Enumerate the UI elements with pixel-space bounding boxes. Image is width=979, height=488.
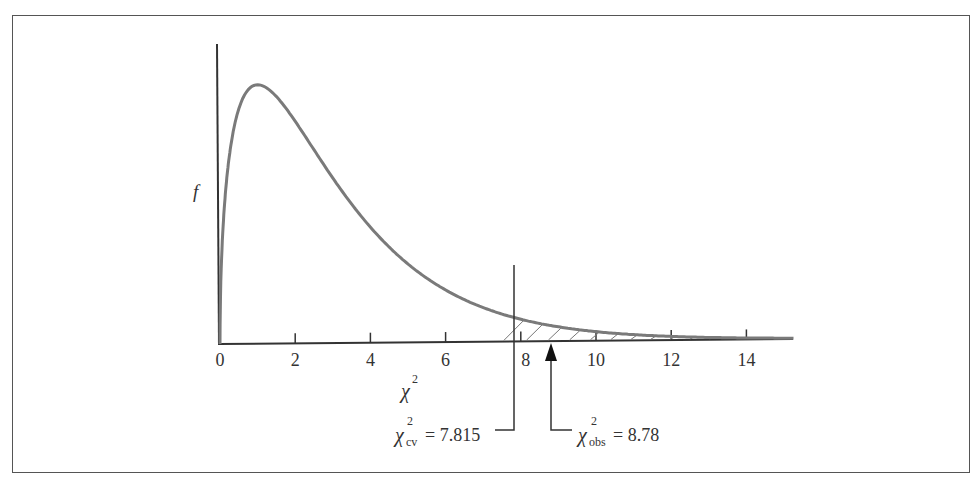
cv-sup: 2 (407, 414, 413, 428)
cv-value: = 7.815 (425, 425, 480, 445)
observed-value-leader (551, 360, 572, 430)
hatch-line (548, 328, 560, 340)
x-tick-label: 0 (216, 350, 225, 370)
hatch-line (631, 336, 636, 340)
x-tick-label: 14 (737, 350, 755, 370)
x-tick-label: 4 (366, 350, 375, 370)
chi-square-chart: 02468101214 f χ 2 χ 2 cv = 7.815 χ 2 obs… (0, 0, 979, 488)
hatch-line (590, 333, 598, 340)
x-axis-tick-labels: 02468101214 (216, 350, 756, 370)
x-axis (219, 339, 793, 344)
y-axis-label: f (193, 181, 201, 202)
x-tick-label: 8 (521, 350, 530, 370)
obs-sup: 2 (591, 414, 597, 428)
cv-sub: cv (406, 435, 417, 449)
critical-value-line (495, 265, 514, 430)
cv-symbol: χ (393, 424, 405, 447)
pdf-curve (220, 85, 794, 344)
x-tick-label: 12 (662, 350, 680, 370)
hatch-line (527, 325, 543, 340)
x-axis-label: χ (399, 380, 411, 403)
obs-value: = 8.78 (613, 425, 659, 445)
x-tick-label: 10 (587, 350, 605, 370)
observed-value-arrow-icon (545, 343, 557, 361)
x-tick-label: 6 (441, 350, 450, 370)
hatch-line (570, 331, 580, 340)
obs-sub: obs (589, 435, 606, 449)
x-tick-label: 2 (291, 350, 300, 370)
obs-symbol: χ (576, 424, 588, 447)
y-axis (217, 44, 219, 345)
x-axis-label-sup: 2 (412, 372, 418, 386)
hatch-line (611, 334, 617, 339)
x-axis-symbol: χ (399, 380, 411, 403)
